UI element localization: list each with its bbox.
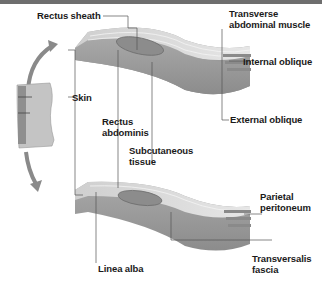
upper-tissue-slab <box>75 28 251 95</box>
label-rectus-2: abdominis <box>102 127 149 138</box>
label-external-oblique: External oblique <box>230 114 302 125</box>
label-skin: Skin <box>72 92 92 103</box>
label-parietal-2: peritoneum <box>260 202 311 213</box>
label-transversalis-1: Transversalis <box>252 253 311 264</box>
diagram-artwork <box>0 0 322 284</box>
abdominal-wall-diagram: Rectus sheath Transverse abdominal muscl… <box>0 0 322 284</box>
label-subcutaneous-1: Subcutaneous <box>129 145 193 156</box>
label-rectus-sheath: Rectus sheath <box>37 10 101 21</box>
label-transverse-1: Transverse <box>229 8 278 19</box>
label-internal-oblique: Internal oblique <box>243 56 312 67</box>
label-transverse-2: abdominal muscle <box>229 19 310 30</box>
torso-outline-icon <box>17 83 54 148</box>
label-linea-alba: Linea alba <box>98 263 143 274</box>
label-transversalis-2: fascia <box>252 264 278 275</box>
label-subcutaneous-2: tissue <box>129 156 156 167</box>
label-parietal-1: Parietal <box>260 191 294 202</box>
label-rectus-1: Rectus <box>102 116 133 127</box>
